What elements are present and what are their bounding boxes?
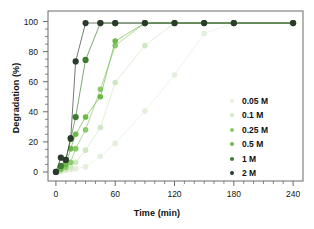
y-tick-label: 40: [12, 107, 38, 117]
x-tick-label: 120: [160, 189, 190, 199]
legend-item-label: 1 M: [242, 154, 256, 164]
data-point: [63, 157, 69, 163]
legend-dot: [230, 99, 234, 103]
legend-marker-icon: [226, 142, 238, 146]
legend-dot: [230, 171, 234, 175]
legend-marker-icon: [226, 171, 238, 175]
data-point: [142, 20, 148, 26]
y-tick-label: 60: [12, 77, 38, 87]
x-tick-label: 0: [41, 189, 71, 199]
data-point: [82, 57, 88, 63]
x-tick-label: 240: [278, 189, 308, 199]
legend-item-label: 0.1 M: [242, 110, 263, 120]
legend-dot: [230, 157, 234, 161]
data-point: [171, 20, 177, 26]
data-point: [73, 114, 79, 120]
degradation-vs-time-chart: Time (min) Degradation (%) 0601201802400…: [0, 0, 314, 229]
data-point: [73, 166, 79, 172]
legend-item[interactable]: 0.25 M: [226, 123, 268, 136]
legend-marker-icon: [226, 113, 238, 117]
legend-dot: [230, 128, 234, 132]
data-point: [112, 38, 118, 44]
x-tick-label: 180: [219, 189, 249, 199]
data-point: [290, 20, 296, 26]
data-point: [201, 31, 207, 37]
data-point: [97, 20, 103, 26]
data-point: [53, 169, 59, 175]
legend-item-label: 2 M: [242, 168, 256, 178]
legend-item[interactable]: 0.1 M: [226, 109, 268, 122]
legend-marker-icon: [226, 128, 238, 132]
data-point: [201, 20, 207, 26]
data-point: [73, 132, 79, 138]
data-point: [68, 164, 74, 170]
y-tick-label: 80: [12, 47, 38, 57]
legend-item[interactable]: 0.5 M: [226, 138, 268, 151]
legend-marker-icon: [226, 99, 238, 103]
data-point: [112, 141, 118, 147]
data-point: [73, 58, 79, 64]
legend-item-label: 0.5 M: [242, 139, 263, 149]
legend-dot: [230, 142, 234, 146]
y-tick-label: 100: [12, 17, 38, 27]
legend-item-label: 0.05 M: [242, 96, 268, 106]
data-point: [83, 127, 89, 133]
data-point: [83, 114, 89, 120]
data-point: [142, 108, 148, 114]
legend-dot: [230, 113, 234, 117]
data-point: [98, 153, 104, 159]
data-point: [73, 159, 79, 165]
data-point: [73, 146, 79, 152]
x-tick-label: 60: [100, 189, 130, 199]
data-point: [98, 94, 104, 100]
data-point: [82, 20, 88, 26]
chart-legend: 0.05 M0.1 M0.25 M0.5 M1 M2 M: [226, 94, 268, 180]
data-point: [68, 135, 74, 141]
data-point: [172, 72, 178, 78]
legend-marker-icon: [226, 157, 238, 161]
data-point: [112, 20, 118, 26]
legend-item-label: 0.25 M: [242, 125, 268, 135]
data-point: [231, 20, 237, 26]
legend-item[interactable]: 2 M: [226, 167, 268, 180]
y-tick-label: 20: [12, 137, 38, 147]
y-tick-label: 0: [12, 167, 38, 177]
data-point: [112, 80, 118, 86]
data-point: [142, 43, 148, 49]
legend-item[interactable]: 0.05 M: [226, 94, 268, 107]
x-axis-title: Time (min): [0, 208, 314, 218]
data-point: [98, 125, 104, 131]
legend-item[interactable]: 1 M: [226, 152, 268, 165]
data-point: [83, 147, 89, 153]
data-point: [83, 164, 89, 170]
